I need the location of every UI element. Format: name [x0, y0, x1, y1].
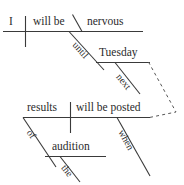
- word-object-audition: audition: [52, 141, 90, 153]
- predicate-adjective-slant-line: [73, 15, 83, 32]
- word-object-tuesday: Tuesday: [99, 47, 138, 59]
- clause-link-dashed-path: [147, 62, 176, 118]
- diagram-lines: [0, 0, 184, 185]
- sentence-diagram: I will be nervous Tuesday results will b…: [0, 0, 184, 185]
- word-predicate-adjective: nervous: [87, 16, 123, 28]
- word-verb-main: will be: [33, 16, 65, 28]
- word-verb-sub: will be posted: [76, 102, 141, 114]
- word-subject-main: I: [9, 16, 13, 28]
- word-subject-sub: results: [27, 102, 57, 114]
